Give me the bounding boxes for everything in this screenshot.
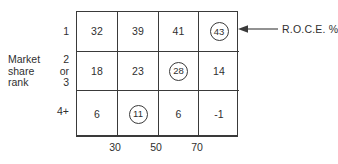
- matrix-cell-r2c3: 28: [159, 52, 199, 91]
- x-tick-label-70: 70: [186, 141, 208, 153]
- cell-value-highlighted: 28: [169, 62, 188, 81]
- cell-value-highlighted: 43: [210, 22, 229, 41]
- x-tick-label-30: 30: [104, 141, 126, 153]
- callout-arrow-icon: [238, 24, 278, 34]
- matrix-cell-r3c2: 11: [118, 91, 159, 137]
- matrix-cell-r2c2: 23: [118, 52, 159, 91]
- row-label-4plus: 4+: [32, 105, 69, 117]
- y-axis-title-line1: Market: [8, 54, 40, 66]
- cell-value: 6: [175, 109, 181, 120]
- row-label-1: 1: [40, 25, 69, 37]
- cell-value: 23: [132, 66, 144, 77]
- cell-value: 18: [91, 66, 103, 77]
- row-label-2: 2: [60, 54, 69, 66]
- matrix-cell-r2c4: 14: [199, 52, 239, 91]
- matrix-cell-r3c4: -1: [199, 91, 239, 137]
- cell-value: -1: [214, 109, 224, 120]
- cell-value: 14: [213, 66, 225, 77]
- row-label-3: 3: [60, 77, 69, 89]
- cell-value-highlighted: 11: [129, 105, 148, 124]
- x-tick-label-50: 50: [145, 141, 167, 153]
- y-axis-title-line3: rank: [8, 77, 40, 89]
- y-axis-label-group: Market share rank 2 or 3: [8, 54, 69, 89]
- cell-value: 39: [132, 26, 144, 37]
- row-label-2-or-3: 2 or 3: [60, 54, 69, 89]
- matrix-cell-r3c1: 6: [77, 91, 118, 137]
- cell-value: 32: [91, 26, 103, 37]
- cell-value: 6: [94, 109, 100, 120]
- matrix-grid: 32 39 41 43 18 23 28 14 6 11 6: [76, 11, 238, 136]
- diagram-canvas: 1 Market share rank 2 or 3 4+ 32 39 41 4…: [0, 0, 338, 164]
- y-axis-title: Market share rank: [8, 54, 40, 89]
- matrix-cell-r1c1: 32: [77, 12, 118, 52]
- cell-value: 41: [172, 26, 184, 37]
- callout-label-roce: R.O.C.E. %: [282, 23, 338, 35]
- matrix-cell-r2c1: 18: [77, 52, 118, 91]
- matrix-cell-r3c3: 6: [159, 91, 199, 137]
- matrix-cell-r1c2: 39: [118, 12, 159, 52]
- matrix-cell-r1c3: 41: [159, 12, 199, 52]
- x-axis-line: [76, 136, 238, 137]
- matrix-cell-r1c4: 43: [199, 12, 239, 52]
